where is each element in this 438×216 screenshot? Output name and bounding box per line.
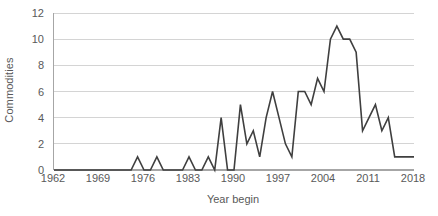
y-tick-label-10: 10	[32, 34, 44, 45]
x-tick-label-1976: 1976	[131, 173, 155, 184]
y-tick-label-12: 12	[32, 8, 44, 19]
plot-svg	[54, 13, 414, 170]
data-series-line	[54, 26, 414, 170]
y-tick-label-6: 6	[38, 86, 44, 97]
commodities-line-chart: Commodities 024681012 196219691976198319…	[0, 0, 438, 216]
x-tick-label-2004: 2004	[311, 173, 335, 184]
x-axis-title: Year begin	[53, 193, 413, 205]
x-tick-label-2011: 2011	[356, 173, 380, 184]
x-tick-label-2018: 2018	[401, 173, 425, 184]
plot-area	[53, 13, 414, 170]
x-axis-tick-labels: 196219691976198319901997200420112018	[53, 173, 413, 191]
y-tick-label-2: 2	[38, 138, 44, 149]
y-axis-title-label: Commodities	[3, 57, 15, 122]
x-tick-label-1969: 1969	[86, 173, 110, 184]
x-tick-label-1997: 1997	[266, 173, 290, 184]
y-tick-label-8: 8	[38, 60, 44, 71]
x-tick-label-1983: 1983	[176, 173, 200, 184]
y-axis-title: Commodities	[0, 0, 18, 180]
x-tick-label-1962: 1962	[41, 173, 65, 184]
x-tick-label-1990: 1990	[221, 173, 245, 184]
y-tick-label-4: 4	[38, 112, 44, 123]
y-axis-tick-labels: 024681012	[18, 0, 48, 180]
